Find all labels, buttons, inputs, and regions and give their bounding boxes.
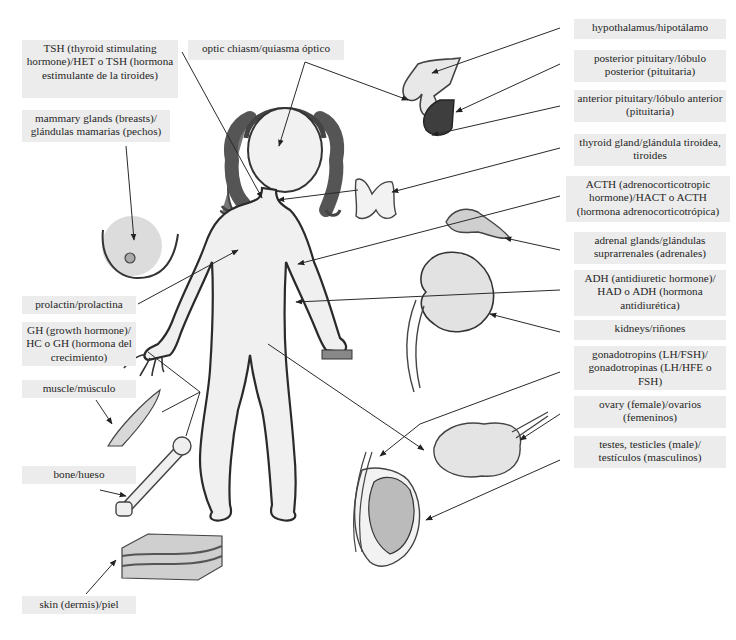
kidney	[407, 252, 494, 392]
endocrine-diagram: TSH (thyroid stimulating hormone)/HET o …	[0, 0, 736, 640]
muscle	[108, 390, 160, 446]
label-hypothalamus: hypothalamus/hipotálamo	[574, 19, 726, 39]
label-prolactin: prolactin/prolactina	[22, 296, 136, 314]
bracelet	[322, 350, 352, 359]
label-kidneys: kidneys/riñones	[574, 320, 726, 340]
adrenal-gland	[446, 209, 510, 238]
label-ovary: ovary (female)/ovarios (femeninos)	[574, 396, 726, 428]
breast	[102, 216, 178, 278]
testis	[354, 452, 420, 566]
head	[248, 108, 322, 192]
label-bone: bone/hueso	[22, 466, 136, 484]
skin-block	[122, 534, 222, 580]
hypothalamus-pituitary	[403, 58, 460, 135]
label-muscle: muscle/músculo	[22, 380, 136, 398]
label-anterior-pituitary: anterior pituitary/lóbulo anterior (pitu…	[574, 90, 726, 122]
body-outline	[144, 188, 346, 521]
label-gonadotropins: gonadotropins (LH/FSH)/ gonadotropinas (…	[574, 346, 726, 390]
label-optic-chiasm: optic chiasm/quiasma óptico	[188, 40, 344, 60]
thyroid-gland	[355, 179, 396, 219]
child-figure	[124, 108, 352, 521]
label-adh: ADH (antidiuretic hormone)/ HAD o ADH (h…	[574, 270, 726, 316]
label-skin: skin (dermis)/piel	[22, 596, 136, 614]
label-adrenal-glands: adrenal glands/glándulas suprarrenales (…	[574, 232, 726, 264]
label-thyroid-gland: thyroid gland/glándula tiroidea, tiroide…	[574, 134, 726, 166]
label-gh: GH (growth hormone)/ HC o GH (hormona de…	[22, 322, 136, 366]
label-mammary-glands: mammary glands (breasts)/ glándulas mama…	[22, 110, 170, 142]
label-posterior-pituitary: posterior pituitary/lóbulo posterior (pi…	[574, 50, 726, 82]
label-testes: testes, testicles (male)/ testículos (ma…	[574, 436, 726, 468]
ovary	[434, 412, 548, 477]
label-acth: ACTH (adrenocorticotropic hormone)/HACT …	[566, 176, 730, 222]
label-tsh: TSH (thyroid stimulating hormone)/HET o …	[22, 40, 178, 98]
